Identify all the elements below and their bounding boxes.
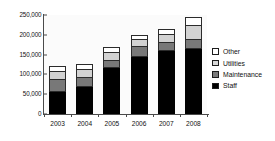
black-square-swatch-icon bbox=[212, 83, 219, 90]
bar-2007 bbox=[158, 29, 175, 114]
legend-item-utilities[interactable]: Utilities bbox=[212, 57, 262, 68]
x-axis-tick-mark bbox=[126, 114, 127, 117]
x-axis-tick-mark bbox=[98, 114, 99, 117]
legend-item-other[interactable]: Other bbox=[212, 46, 262, 57]
bar-segment-maintenance bbox=[76, 78, 93, 87]
bar-2008 bbox=[185, 17, 202, 114]
x-axis-tick-mark bbox=[180, 114, 181, 117]
x-axis-tick-mark bbox=[153, 114, 154, 117]
bar-segment-staff bbox=[131, 57, 148, 114]
bar-segment-other bbox=[185, 17, 202, 26]
stacked-bar-chart: 250,000 200,000 150,000 100,000 50,000 0… bbox=[0, 0, 275, 141]
bar-segment-maintenance bbox=[131, 47, 148, 57]
bar-segment-staff bbox=[158, 51, 175, 114]
bar-segment-maintenance bbox=[49, 80, 66, 93]
legend-item-staff[interactable]: Staff bbox=[212, 80, 262, 91]
bar-segment-maintenance bbox=[185, 40, 202, 50]
x-axis-tick-label: 2003 bbox=[50, 120, 65, 127]
bar-segment-utilities bbox=[185, 26, 202, 40]
bar-2003 bbox=[49, 66, 66, 114]
white-square-swatch-icon bbox=[212, 48, 219, 55]
bar-segment-utilities bbox=[158, 35, 175, 43]
bar-series-layer bbox=[44, 15, 207, 114]
x-axis-tick-label: 2008 bbox=[186, 120, 201, 127]
bar-segment-staff bbox=[76, 87, 93, 114]
x-axis-tick-mark bbox=[207, 114, 208, 117]
bar-segment-utilities bbox=[103, 53, 120, 62]
bar-segment-staff bbox=[49, 92, 66, 114]
x-axis-tick-mark bbox=[44, 114, 45, 117]
legend-item-label: Utilities bbox=[223, 60, 245, 67]
legend-item-label: Maintenance bbox=[223, 71, 262, 78]
y-axis-tick-label: 200,000 bbox=[19, 32, 44, 38]
bar-segment-staff bbox=[185, 49, 202, 114]
bar-2006 bbox=[131, 35, 148, 114]
bar-segment-maintenance bbox=[103, 61, 120, 68]
x-axis-tick-label: 2007 bbox=[159, 120, 174, 127]
light-gray-square-swatch-icon bbox=[212, 60, 219, 67]
y-axis-tick-label: 250,000 bbox=[19, 12, 44, 18]
y-axis-tick-label: 150,000 bbox=[19, 51, 44, 57]
legend-item-maintenance[interactable]: Maintenance bbox=[212, 69, 262, 80]
legend-item-label: Other bbox=[223, 48, 240, 55]
bar-segment-utilities bbox=[49, 72, 66, 80]
bar-segment-staff bbox=[103, 68, 120, 114]
y-axis-tick-label: 50,000 bbox=[23, 91, 44, 97]
x-axis-tick-label: 2004 bbox=[77, 120, 92, 127]
dark-gray-square-swatch-icon bbox=[212, 71, 219, 78]
bar-segment-utilities bbox=[76, 70, 93, 79]
x-axis-tick-label: 2005 bbox=[105, 120, 120, 127]
bar-segment-maintenance bbox=[158, 43, 175, 52]
bar-segment-utilities bbox=[131, 40, 148, 47]
chart-legend: Other Utilities Maintenance Staff bbox=[212, 46, 262, 92]
bar-2004 bbox=[76, 64, 93, 114]
y-axis-tick-label: 100,000 bbox=[19, 71, 44, 77]
bar-2005 bbox=[103, 47, 120, 114]
x-axis-tick-label: 2006 bbox=[132, 120, 147, 127]
legend-item-label: Staff bbox=[223, 82, 237, 89]
x-axis-tick-mark bbox=[71, 114, 72, 117]
